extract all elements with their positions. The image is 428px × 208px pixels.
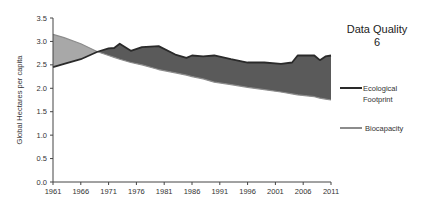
x-tick-label: 1981	[156, 187, 173, 196]
axes	[53, 18, 331, 182]
y-tick-label: 2.0	[37, 84, 47, 93]
x-tick-label: 2011	[323, 187, 339, 196]
legend-item-ecological-footprint[interactable]: Ecological Footprint	[340, 84, 398, 104]
x-ticks: 1961196619711976198119861991199620012006…	[45, 182, 339, 196]
legend-label-ecological-footprint: Ecological	[363, 84, 398, 93]
reserve-area	[53, 34, 97, 67]
y-axis-title: Global Hectares per capita	[15, 55, 24, 145]
x-tick-label: 1971	[100, 187, 117, 196]
y-tick-label: 0.5	[37, 154, 47, 163]
legend: Ecological Footprint Biocapacity	[340, 84, 404, 133]
x-tick-label: 1976	[128, 187, 145, 196]
chart: 0.00.51.01.52.02.53.03.5 196119661971197…	[0, 0, 428, 208]
y-tick-label: 1.5	[37, 107, 47, 116]
y-ticks: 0.00.51.01.52.02.53.03.5	[37, 14, 53, 187]
area-fills	[53, 34, 331, 100]
x-tick-label: 2006	[295, 187, 312, 196]
x-tick-label: 1996	[239, 187, 256, 196]
x-tick-label: 2001	[267, 187, 284, 196]
x-tick-label: 1966	[72, 187, 89, 196]
y-tick-label: 2.5	[37, 60, 47, 69]
chart-title: Data Quality	[347, 23, 408, 35]
legend-label-ecological-footprint-line2: Footprint	[363, 95, 394, 104]
x-tick-label: 1991	[211, 187, 228, 196]
x-tick-label: 1961	[45, 187, 62, 196]
legend-item-biocapacity[interactable]: Biocapacity	[340, 124, 404, 133]
x-tick-label: 1986	[184, 187, 201, 196]
y-tick-label: 3.0	[37, 37, 47, 46]
chart-subtitle: 6	[374, 36, 380, 48]
y-tick-label: 1.0	[37, 131, 47, 140]
legend-label-biocapacity: Biocapacity	[365, 124, 404, 133]
deficit-area	[97, 44, 331, 100]
y-tick-label: 3.5	[37, 14, 47, 23]
y-tick-label: 0.0	[37, 178, 47, 187]
